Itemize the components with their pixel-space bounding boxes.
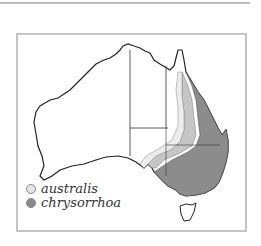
tasmania-outline: [180, 203, 196, 221]
legend-item-australis: australis: [26, 182, 121, 196]
legend-item-chrysorrhoa: chrysorrhoa: [26, 196, 121, 210]
legend-label: chrysorrhoa: [41, 196, 121, 210]
map-legend: australis chrysorrhoa: [26, 182, 121, 210]
legend-label: australis: [41, 182, 98, 196]
legend-swatch-icon: [26, 184, 36, 194]
legend-swatch-icon: [26, 198, 36, 208]
